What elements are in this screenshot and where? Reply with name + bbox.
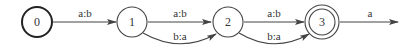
state-3-label: 3 [319,15,325,29]
state-0: 0 [22,7,52,37]
state-1-label: 1 [129,15,135,29]
edge-label-3-exit: a [368,7,373,19]
state-3-final: 3 [305,5,339,39]
edge-2-3-top: a:b [244,7,304,22]
edge-label-1-2-top: a:b [173,7,187,19]
edge-0-1: a:b [53,7,116,22]
edge-3-exit: a [340,7,398,22]
edge-2-3-bottom: b:a [239,30,309,44]
edge-label-1-2-bottom: b:a [173,30,187,42]
edge-label-2-3-bottom: b:a [267,30,281,42]
state-1: 1 [117,7,147,37]
edge-1-2-bottom: b:a [143,30,216,44]
state-0-label: 0 [34,15,40,29]
state-2-label: 2 [225,15,231,29]
fst-diagram: a:b a:b b:a a:b b:a a 0 1 [0,0,419,52]
edge-1-2-top: a:b [148,7,211,22]
edge-label-0-1: a:b [78,7,92,19]
edge-label-2-3-top: a:b [267,7,281,19]
state-2: 2 [213,7,243,37]
